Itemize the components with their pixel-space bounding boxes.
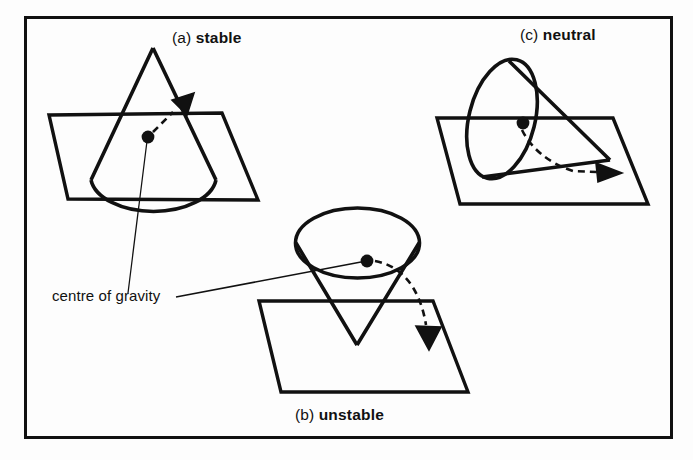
figure-page: (a) stable (b) unstable (c) neutral cent… <box>0 0 693 460</box>
caption-stable-tag: (a) <box>172 29 191 46</box>
equilibrium-diagram <box>0 0 693 460</box>
stable-cone-cog-dot <box>142 131 155 144</box>
caption-neutral-tag: (c) <box>520 26 538 43</box>
caption-unstable-tag: (b) <box>295 406 314 423</box>
panel-stable <box>49 48 258 293</box>
caption-unstable: (b) unstable <box>295 407 384 423</box>
caption-stable-name: stable <box>196 29 242 46</box>
unstable-plane <box>259 301 468 392</box>
neutral-arrow-head <box>596 163 622 182</box>
caption-neutral-name: neutral <box>543 26 596 43</box>
unstable-cog-leader-line <box>176 262 361 297</box>
stable-cog-leader-line <box>128 141 147 293</box>
unstable-cone-cog-dot <box>361 255 374 268</box>
centre-of-gravity-label: centre of gravity <box>52 287 160 304</box>
caption-unstable-name: unstable <box>319 406 384 423</box>
panel-unstable <box>176 208 468 392</box>
figure-border <box>26 18 672 438</box>
unstable-arrow-head <box>416 326 441 350</box>
stable-cone-base-ellipse <box>91 180 216 211</box>
caption-stable: (a) stable <box>172 30 242 46</box>
panel-neutral <box>437 52 648 204</box>
unstable-cone-outline <box>296 243 419 345</box>
stable-plane <box>49 113 258 200</box>
unstable-cone-base-ellipse <box>296 208 420 278</box>
caption-neutral: (c) neutral <box>520 27 596 43</box>
neutral-cone-cog-dot <box>517 117 530 130</box>
neutral-plane <box>437 118 648 204</box>
